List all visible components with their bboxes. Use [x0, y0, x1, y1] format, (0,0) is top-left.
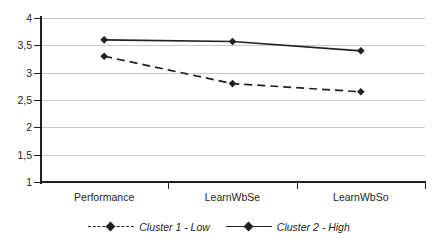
y-tick-mark	[34, 45, 40, 46]
y-tick-mark	[34, 18, 40, 19]
y-tick-label: 4	[2, 13, 32, 24]
x-tick-label: LearnWbSe	[168, 192, 296, 203]
legend-entry-cluster-1[interactable]: Cluster 1 - Low	[88, 222, 210, 233]
y-tick-label: 3,5	[2, 40, 32, 51]
x-tick-label: Performance	[40, 192, 168, 203]
y-tick-mark	[34, 73, 40, 74]
x-tick-label: LearnWbSo	[297, 192, 425, 203]
gridline	[40, 155, 425, 156]
y-tick-mark	[34, 100, 40, 101]
y-tick-mark	[34, 155, 40, 156]
line-chart: 11,522,533,54 PerformanceLearnWbSeLearnW…	[0, 0, 438, 246]
x-axis-line	[40, 181, 426, 183]
y-tick-label: 1	[2, 177, 32, 188]
y-tick-label: 2,5	[2, 95, 32, 106]
y-axis-tick-labels: 11,522,533,54	[0, 0, 32, 246]
chart-legend: Cluster 1 - Low Cluster 2 - High	[0, 222, 438, 233]
y-axis-line	[40, 16, 42, 184]
legend-swatch-dashed-diamond-icon	[88, 222, 134, 232]
x-tick-mark	[168, 183, 169, 189]
x-tick-mark	[297, 183, 298, 189]
gridline	[40, 127, 425, 128]
x-tick-mark	[425, 183, 426, 189]
y-tick-label: 2	[2, 122, 32, 133]
gridline	[40, 100, 425, 101]
y-tick-label: 1,5	[2, 150, 32, 161]
y-tick-mark	[34, 127, 40, 128]
y-tick-mark	[34, 182, 40, 183]
legend-label: Cluster 1 - Low	[139, 222, 210, 233]
plot-area	[40, 18, 425, 182]
legend-label: Cluster 2 - High	[277, 222, 350, 233]
legend-swatch-solid-diamond-icon	[226, 222, 272, 232]
gridline	[40, 73, 425, 74]
gridline	[40, 18, 425, 19]
y-tick-label: 3	[2, 68, 32, 79]
gridline	[40, 45, 425, 46]
legend-entry-cluster-2[interactable]: Cluster 2 - High	[226, 222, 350, 233]
